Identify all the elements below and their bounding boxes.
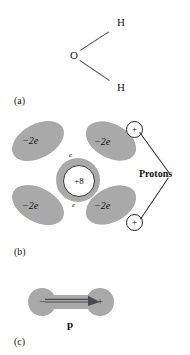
lobe-label-upper-left: −2e xyxy=(22,135,38,146)
panel-label-b: (b) xyxy=(14,246,26,257)
leader-line-upper xyxy=(139,132,169,173)
bond-o-h-upper xyxy=(80,31,109,50)
panel-label-c: (c) xyxy=(14,336,25,347)
dipole-vector-arrow xyxy=(44,294,104,310)
panel-label-a: (a) xyxy=(14,95,25,106)
nucleus-core: +8 xyxy=(63,165,95,197)
bond-o-h-lower xyxy=(79,60,109,81)
panel-a-water-molecule: O H H (a) xyxy=(0,0,190,110)
atom-hydrogen-upper: H xyxy=(117,17,125,28)
bonding-electron-upper: e xyxy=(69,151,72,159)
bonding-electron-lower: e xyxy=(72,201,75,209)
atom-oxygen: O xyxy=(70,50,78,61)
panel-b-charge-distribution: −2e −2e −2e −2e +8 e e + + Protons (b) xyxy=(0,110,190,260)
leader-line-lower xyxy=(140,178,169,220)
dipole-vector-label: p xyxy=(67,318,73,330)
lobe-label-lower-right: −2e xyxy=(94,200,110,211)
lobe-label-lower-left: −2e xyxy=(22,200,38,211)
panel-c-dipole: − + p (c) xyxy=(0,260,190,355)
lobe-label-upper-right: −2e xyxy=(94,136,110,147)
protons-callout-label: Protons xyxy=(139,168,172,179)
atom-hydrogen-lower: H xyxy=(117,82,125,93)
